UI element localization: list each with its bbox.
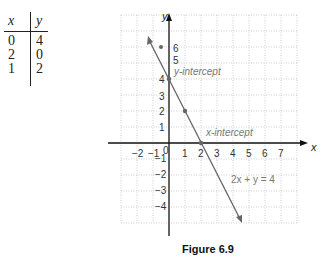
svg-text:6: 6 <box>262 148 268 159</box>
line-arrow-top-icon <box>147 36 153 45</box>
svg-text:3: 3 <box>214 148 220 159</box>
grid <box>121 15 297 223</box>
y-intercept-label: y-intercept <box>173 66 222 77</box>
svg-text:1: 1 <box>159 122 165 133</box>
svg-text:−2: −2 <box>132 148 144 159</box>
svg-text:5: 5 <box>246 148 252 159</box>
svg-text:−3: −3 <box>155 185 167 196</box>
svg-text:5: 5 <box>173 55 179 66</box>
svg-text:2: 2 <box>198 148 204 159</box>
svg-text:4: 4 <box>159 74 165 85</box>
svg-text:6: 6 <box>173 43 179 54</box>
svg-text:−1: −1 <box>155 153 167 164</box>
svg-text:−2: −2 <box>155 169 167 180</box>
x-axis-label: x <box>310 141 317 153</box>
svg-text:4: 4 <box>230 148 236 159</box>
svg-text:7: 7 <box>278 148 284 159</box>
svg-text:−4: −4 <box>155 201 167 212</box>
coordinate-graph: y x −2 −1 0 1 2 3 4 5 6 7 6 5 4 3 2 1 −1… <box>0 0 327 267</box>
svg-text:2: 2 <box>159 106 165 117</box>
equation-label: 2x + y = 4 <box>231 174 275 185</box>
svg-text:1: 1 <box>182 148 188 159</box>
line-arrow-bottom-icon <box>236 215 242 223</box>
svg-text:3: 3 <box>159 91 165 102</box>
x-axis-arrow-icon <box>300 140 308 146</box>
figure-caption: Figure 6.9 <box>182 243 234 255</box>
x-intercept-label: x-intercept <box>205 127 254 138</box>
